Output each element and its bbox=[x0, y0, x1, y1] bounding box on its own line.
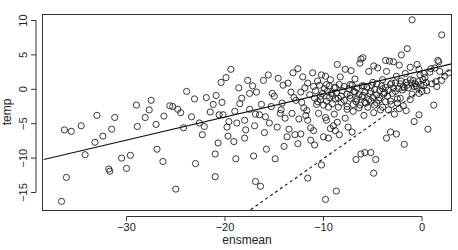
data-point bbox=[199, 132, 205, 138]
data-point bbox=[92, 139, 98, 145]
data-point bbox=[261, 130, 267, 136]
data-point bbox=[302, 85, 308, 91]
data-point bbox=[387, 129, 393, 135]
data-point bbox=[263, 146, 269, 152]
y-tick-label: 5 bbox=[17, 52, 29, 58]
data-point bbox=[247, 90, 253, 96]
data-point bbox=[127, 152, 133, 158]
data-point bbox=[274, 124, 280, 130]
data-point bbox=[407, 64, 413, 70]
data-point bbox=[146, 107, 152, 113]
data-point bbox=[289, 110, 295, 116]
data-point bbox=[295, 141, 301, 147]
data-point bbox=[358, 151, 364, 157]
plot-area bbox=[44, 17, 452, 210]
x-tick-label: 0 bbox=[419, 221, 425, 233]
data-point bbox=[404, 46, 410, 52]
data-point bbox=[215, 140, 221, 146]
data-point bbox=[437, 68, 443, 74]
data-point bbox=[425, 126, 431, 132]
data-point bbox=[288, 89, 294, 95]
data-point bbox=[398, 52, 404, 58]
data-point bbox=[203, 95, 209, 101]
data-point bbox=[252, 178, 258, 184]
data-point bbox=[281, 143, 287, 149]
y-axis: −15−10−50510 bbox=[17, 14, 36, 201]
data-point bbox=[286, 126, 292, 132]
data-point bbox=[322, 196, 328, 202]
data-point bbox=[336, 132, 342, 138]
data-point bbox=[292, 132, 298, 138]
data-point bbox=[173, 186, 179, 192]
data-point bbox=[232, 108, 238, 114]
data-point bbox=[409, 91, 415, 97]
data-point bbox=[431, 102, 437, 108]
data-point bbox=[213, 92, 219, 98]
data-point bbox=[160, 158, 166, 164]
data-point bbox=[234, 120, 240, 126]
data-point bbox=[94, 112, 100, 118]
data-point bbox=[210, 101, 216, 107]
data-point bbox=[295, 66, 301, 72]
data-point bbox=[316, 110, 322, 116]
data-point bbox=[142, 114, 148, 120]
data-point bbox=[207, 109, 213, 115]
data-point bbox=[184, 88, 190, 94]
data-point bbox=[134, 123, 140, 129]
data-point bbox=[371, 110, 377, 116]
data-point bbox=[100, 133, 106, 139]
data-point bbox=[391, 111, 397, 117]
data-point bbox=[236, 85, 242, 91]
data-point bbox=[133, 102, 139, 108]
data-point bbox=[383, 68, 389, 74]
data-point bbox=[401, 141, 407, 147]
data-point bbox=[233, 156, 239, 162]
x-axis-label: ensmean bbox=[222, 233, 271, 247]
data-point bbox=[361, 112, 367, 118]
data-point bbox=[393, 131, 399, 137]
data-point bbox=[109, 126, 115, 132]
data-point bbox=[123, 165, 129, 171]
data-point bbox=[112, 114, 118, 120]
x-axis: −30−20−100 bbox=[117, 217, 425, 234]
data-point bbox=[349, 129, 355, 135]
data-point bbox=[239, 95, 245, 101]
data-point bbox=[360, 55, 366, 61]
x-tick-label: −30 bbox=[117, 221, 136, 233]
data-point bbox=[366, 68, 372, 74]
data-point bbox=[260, 77, 266, 83]
data-point bbox=[362, 150, 368, 156]
data-point bbox=[266, 120, 272, 126]
data-point bbox=[78, 123, 84, 129]
data-point bbox=[251, 153, 257, 159]
y-tick-label: −5 bbox=[17, 117, 29, 130]
data-point bbox=[350, 108, 356, 114]
data-point bbox=[348, 68, 354, 74]
data-point bbox=[390, 59, 396, 65]
data-point bbox=[224, 124, 230, 130]
data-point bbox=[342, 115, 348, 121]
data-point bbox=[298, 131, 304, 137]
data-point bbox=[245, 77, 251, 83]
data-point bbox=[300, 74, 306, 80]
y-axis-label: temp bbox=[0, 98, 14, 125]
data-point bbox=[299, 99, 305, 105]
data-point bbox=[231, 139, 237, 145]
data-point bbox=[371, 170, 377, 176]
data-point bbox=[191, 96, 197, 102]
data-point bbox=[335, 104, 341, 110]
data-point bbox=[318, 72, 324, 78]
scatter-plot: −15−10−50510 −30−20−100 ensmean temp bbox=[0, 0, 458, 250]
data-point bbox=[212, 174, 218, 180]
data-point bbox=[242, 117, 248, 123]
y-tick-label: 0 bbox=[17, 86, 29, 92]
data-point bbox=[334, 119, 340, 125]
data-point bbox=[312, 142, 318, 148]
data-point bbox=[373, 156, 379, 162]
data-point bbox=[310, 70, 316, 76]
data-point bbox=[223, 75, 229, 81]
data-point bbox=[61, 127, 67, 133]
data-point bbox=[272, 156, 278, 162]
data-point bbox=[243, 127, 249, 133]
data-point bbox=[282, 115, 288, 121]
